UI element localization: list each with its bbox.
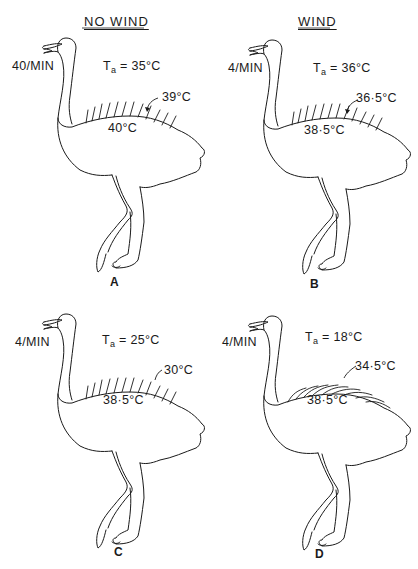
panel-label-b: B xyxy=(310,278,319,290)
ambient-temp-d: Ta = 18°C xyxy=(305,331,363,346)
ostrich-diagram-art xyxy=(0,0,418,569)
breathing-rate-a: 40/MIN xyxy=(12,60,54,73)
ambient-temp-a: Ta = 35°C xyxy=(103,60,161,75)
ambient-temp-c: Ta = 25°C xyxy=(102,334,160,349)
surface-temp-b: 36·5°C xyxy=(356,92,397,105)
panel-label-c: C xyxy=(114,546,123,558)
breathing-rate-c: 4/MIN xyxy=(15,336,50,349)
panel-label-a: A xyxy=(110,276,119,288)
skin-temp-c: 38·5°C xyxy=(103,394,144,407)
panel-label-d: D xyxy=(315,548,324,560)
skin-temp-a: 40°C xyxy=(108,122,137,135)
surface-temp-a: 39°C xyxy=(162,91,191,104)
header-no-wind: NO WIND xyxy=(84,15,149,28)
ostrich-panel-c xyxy=(43,314,205,548)
surface-temp-d: 34·5°C xyxy=(355,360,396,373)
skin-temp-d: 38·5°C xyxy=(307,394,348,407)
breathing-rate-b: 4/MIN xyxy=(228,62,263,75)
header-wind: WIND xyxy=(298,15,337,28)
skin-temp-b: 38·5°C xyxy=(304,124,345,137)
breathing-rate-d: 4/MIN xyxy=(222,336,257,349)
ambient-temp-b: Ta = 36°C xyxy=(313,62,371,77)
ostrich-panel-d xyxy=(249,316,411,550)
surface-temp-c: 30°C xyxy=(164,364,193,377)
